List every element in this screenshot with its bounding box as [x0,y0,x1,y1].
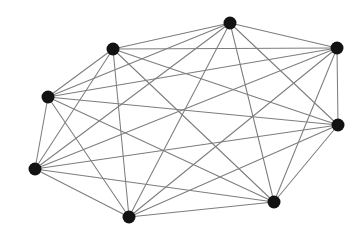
graph-vertex [224,17,237,30]
graph-vertex [268,196,281,209]
graph-canvas [0,0,364,227]
graph-figure [0,0,364,227]
graph-vertex [42,91,55,104]
graph-vertex [107,43,120,56]
graph-vertex [123,211,136,224]
graph-vertex [29,163,42,176]
graph-vertex [331,42,344,55]
graph-vertex [332,119,345,132]
